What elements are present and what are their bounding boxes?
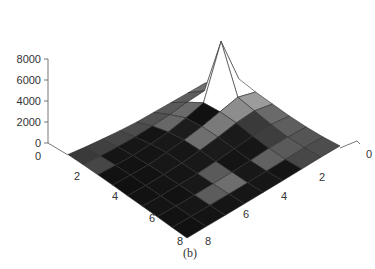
right-axis-tick-label: 2: [319, 171, 325, 183]
z-tick-label: 8000: [17, 53, 41, 65]
z-tick-label: 0: [35, 137, 41, 149]
left-axis-tick-label: 4: [112, 190, 118, 202]
left-axis-tick-label: 6: [149, 212, 155, 224]
right-axis-tick-label: 6: [243, 208, 249, 220]
figure-caption: (b): [183, 246, 197, 260]
right-axis-tick-label: 4: [281, 190, 287, 202]
left-axis-tick-label: 2: [74, 170, 80, 182]
z-axis: 8000 6000 4000 2000 0: [17, 53, 68, 155]
surface-mesh: [68, 42, 340, 239]
left-axis-tick-label: 0: [35, 150, 41, 162]
surface-plot: 8000 6000 4000 2000 0 0 2 4 6 8 0 2 4 6 …: [0, 0, 375, 269]
z-tick-label: 6000: [17, 74, 41, 86]
z-tick-label: 4000: [17, 95, 41, 107]
right-axis-tick-label: 0: [366, 148, 372, 160]
z-tick-label: 2000: [17, 116, 41, 128]
right-axis-tick-label: 8: [205, 235, 211, 247]
